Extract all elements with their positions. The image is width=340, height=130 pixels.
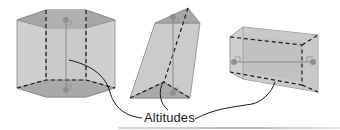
rectangular-prism xyxy=(230,27,318,92)
divider-line xyxy=(118,127,340,129)
altitudes-label: Altitudes xyxy=(144,110,195,125)
hexagonal-prism xyxy=(17,10,115,97)
triangular-prism xyxy=(130,8,200,98)
